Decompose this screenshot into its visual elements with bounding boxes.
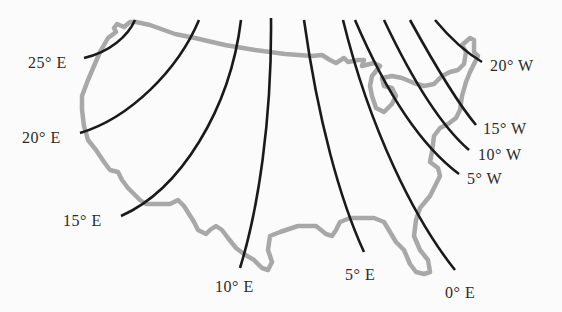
us-boundary-outline: [82, 22, 478, 274]
isogonic-line-w15: [410, 20, 476, 125]
isogonic-labels: 25° E20° E15° E10° E5° E0° E5° W10° W15°…: [22, 54, 534, 301]
isogonic-label-e10: 10° E: [215, 278, 254, 295]
isogonic-line-e10: [240, 18, 271, 268]
isogonic-label-e20: 20° E: [22, 129, 61, 146]
isogonic-label-e00: 0° E: [445, 284, 475, 301]
isogonic-label-e05: 5° E: [345, 266, 375, 283]
isogonic-label-w20: 20° W: [490, 57, 534, 74]
isogonic-line-e15: [121, 20, 241, 216]
isogonic-label-w10: 10° W: [478, 146, 522, 163]
isogonic-line-e00: [343, 20, 455, 270]
isogonic-label-e15: 15° E: [63, 212, 102, 229]
isogonic-label-w05: 5° W: [467, 170, 503, 187]
isogonic-map: 25° E20° E15° E10° E5° E0° E5° W10° W15°…: [0, 0, 562, 312]
isogonic-label-e25: 25° E: [28, 54, 67, 71]
isogonic-label-w15: 15° W: [483, 120, 527, 137]
